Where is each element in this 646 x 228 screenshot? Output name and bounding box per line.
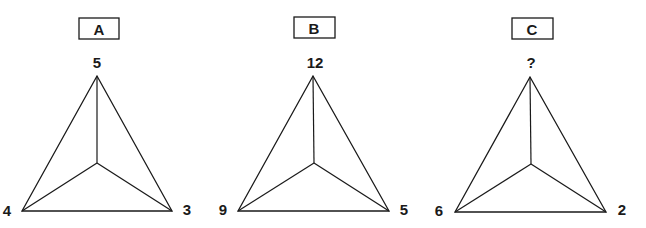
figure-a-left-number: 4 [3,202,12,219]
figure-c-spoke-right [531,164,606,212]
figure-c-spoke-top [530,77,531,164]
figure-c-right-number: 2 [618,201,626,218]
figure-c-left-number: 6 [435,202,443,219]
figure-a-right-number: 3 [183,201,191,218]
figure-b-left-number: 9 [219,201,227,218]
figure-b-top-number: 12 [307,54,324,71]
figure-b-spoke-left [238,163,314,211]
figure-a: A 5 4 3 [3,18,191,219]
figure-a-label: A [94,21,105,38]
figure-b-right-number: 5 [400,201,408,218]
figure-a-spoke-right [97,163,172,211]
figure-b-spoke-right [314,163,389,211]
figure-c-top-number: ? [526,54,535,71]
puzzle-canvas: A 5 4 3 B 12 9 5 C ? 6 2 [0,0,646,228]
figure-b-label: B [309,20,320,37]
figure-b-spoke-top [313,76,314,163]
figure-c-spoke-left [455,164,531,212]
figure-c-label: C [527,21,538,38]
figure-a-spoke-left [22,163,97,211]
figure-a-top-number: 5 [93,54,101,71]
figure-b: B 12 9 5 [219,17,408,218]
figure-c: C ? 6 2 [435,18,626,219]
